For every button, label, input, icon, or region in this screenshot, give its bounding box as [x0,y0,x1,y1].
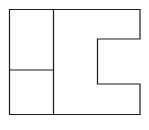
diagram-canvas [0,0,149,130]
floor-plan-diagram [0,0,149,130]
outer-outline [10,10,141,115]
